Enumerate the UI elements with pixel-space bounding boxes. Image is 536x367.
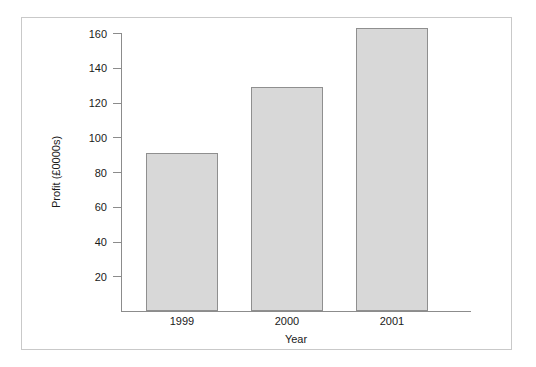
y-tick-mark xyxy=(113,33,121,34)
y-tick-20: 20 xyxy=(113,276,121,277)
y-tick-label: 140 xyxy=(89,63,107,74)
y-tick-160: 160 xyxy=(113,33,121,34)
bar-2000 xyxy=(251,87,323,311)
y-tick-mark xyxy=(113,137,121,138)
y-tick-label: 60 xyxy=(95,202,107,213)
bar-2001 xyxy=(356,28,428,311)
y-axis-title: Profit (£0000s) xyxy=(51,136,62,208)
y-tick-mark xyxy=(113,172,121,173)
bar-chart: 20 40 60 80 100 120 140 160 1999 2000 20… xyxy=(0,0,536,367)
y-tick-mark xyxy=(113,68,121,69)
x-category-label-2000: 2000 xyxy=(251,316,323,327)
y-tick-40: 40 xyxy=(113,242,121,243)
y-tick-label: 20 xyxy=(95,271,107,282)
x-axis-title: Year xyxy=(121,334,471,345)
y-tick-label: 100 xyxy=(89,132,107,143)
y-tick-80: 80 xyxy=(113,172,121,173)
y-tick-140: 140 xyxy=(113,68,121,69)
y-tick-100: 100 xyxy=(113,137,121,138)
y-tick-mark xyxy=(113,207,121,208)
y-tick-label: 160 xyxy=(89,28,107,39)
y-tick-label: 80 xyxy=(95,167,107,178)
y-tick-mark xyxy=(113,103,121,104)
y-tick-label: 120 xyxy=(89,98,107,109)
x-axis-line xyxy=(121,311,471,312)
y-tick-label: 40 xyxy=(95,237,107,248)
y-axis-line xyxy=(121,33,122,312)
bar-1999 xyxy=(146,153,218,311)
y-tick-60: 60 xyxy=(113,207,121,208)
y-tick-mark xyxy=(113,242,121,243)
x-category-label-2001: 2001 xyxy=(356,316,428,327)
x-category-label-1999: 1999 xyxy=(146,316,218,327)
y-tick-120: 120 xyxy=(113,103,121,104)
y-tick-mark xyxy=(113,276,121,277)
